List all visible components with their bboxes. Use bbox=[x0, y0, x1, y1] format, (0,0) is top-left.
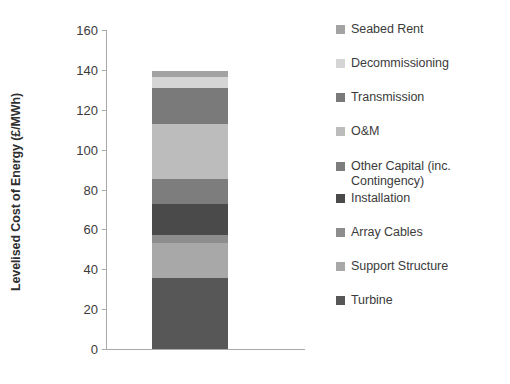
legend-item-label: Array Cables bbox=[351, 225, 423, 241]
stacked-bar[interactable] bbox=[152, 71, 228, 349]
legend-item-label: Decommissioning bbox=[351, 56, 449, 72]
bar-segment[interactable] bbox=[152, 278, 228, 349]
legend-item-label: Seabed Rent bbox=[351, 22, 423, 38]
y-axis-title: Levelised Cost of Energy (£/MWh) bbox=[0, 0, 32, 384]
legend-color-swatch-icon bbox=[336, 296, 345, 305]
y-axis-tick-label: 80 bbox=[84, 182, 98, 197]
chart-legend: Seabed RentDecommissioningTransmissionO&… bbox=[336, 22, 510, 327]
bar-segment[interactable] bbox=[152, 235, 228, 243]
legend-item[interactable]: Seabed Rent bbox=[336, 22, 510, 38]
y-axis-tick-label: 100 bbox=[76, 142, 98, 157]
x-axis-line bbox=[106, 349, 305, 350]
legend-item[interactable]: Installation bbox=[336, 191, 510, 207]
legend-item[interactable]: O&M bbox=[336, 124, 510, 140]
y-axis-tick-label: 120 bbox=[76, 102, 98, 117]
legend-item[interactable]: Support Structure bbox=[336, 259, 510, 275]
y-axis-tick-mark bbox=[102, 190, 106, 191]
stacked-bar-chart-figure: Levelised Cost of Energy (£/MWh) 0204060… bbox=[0, 0, 510, 384]
y-axis-tick-label: 140 bbox=[76, 62, 98, 77]
legend-item-label: Other Capital (inc. Contingency) bbox=[351, 159, 510, 190]
y-axis-tick-label: 20 bbox=[84, 302, 98, 317]
bar-segment[interactable] bbox=[152, 243, 228, 278]
bar-segment[interactable] bbox=[152, 88, 228, 124]
y-axis-tick-mark bbox=[102, 30, 106, 31]
legend-item[interactable]: Other Capital (inc. Contingency) bbox=[336, 159, 510, 190]
legend-item-label: Transmission bbox=[351, 90, 424, 106]
legend-item[interactable]: Transmission bbox=[336, 90, 510, 106]
legend-color-swatch-icon bbox=[336, 59, 345, 68]
legend-color-swatch-icon bbox=[336, 194, 345, 203]
legend-item-label: Installation bbox=[351, 191, 410, 207]
bar-segment[interactable] bbox=[152, 124, 228, 179]
legend-color-swatch-icon bbox=[336, 262, 345, 271]
legend-item-label: Support Structure bbox=[351, 259, 448, 275]
legend-item-label: O&M bbox=[351, 124, 379, 140]
y-axis-tick-label: 40 bbox=[84, 262, 98, 277]
legend-item[interactable]: Decommissioning bbox=[336, 56, 510, 72]
plot-area: 020406080100120140160 bbox=[106, 30, 305, 350]
legend-color-swatch-icon bbox=[336, 127, 345, 136]
bar-segment[interactable] bbox=[152, 204, 228, 235]
y-axis-line bbox=[106, 30, 107, 350]
y-axis-tick-mark bbox=[102, 309, 106, 310]
legend-item[interactable]: Array Cables bbox=[336, 225, 510, 241]
legend-color-swatch-icon bbox=[336, 93, 345, 102]
legend-color-swatch-icon bbox=[336, 228, 345, 237]
y-axis-tick-mark bbox=[102, 349, 106, 350]
legend-item-label: Turbine bbox=[351, 293, 393, 309]
y-axis-tick-mark bbox=[102, 269, 106, 270]
bar-segment[interactable] bbox=[152, 179, 228, 205]
y-axis-tick-mark bbox=[102, 70, 106, 71]
y-axis-tick-label: 60 bbox=[84, 222, 98, 237]
y-axis-tick-mark bbox=[102, 110, 106, 111]
y-axis-tick-mark bbox=[102, 150, 106, 151]
legend-item[interactable]: Turbine bbox=[336, 293, 510, 309]
legend-color-swatch-icon bbox=[336, 162, 345, 171]
legend-color-swatch-icon bbox=[336, 25, 345, 34]
bar-segment[interactable] bbox=[152, 77, 228, 88]
y-axis-tick-mark bbox=[102, 229, 106, 230]
y-axis-tick-label: 0 bbox=[91, 342, 98, 357]
y-axis-tick-label: 160 bbox=[76, 23, 98, 38]
